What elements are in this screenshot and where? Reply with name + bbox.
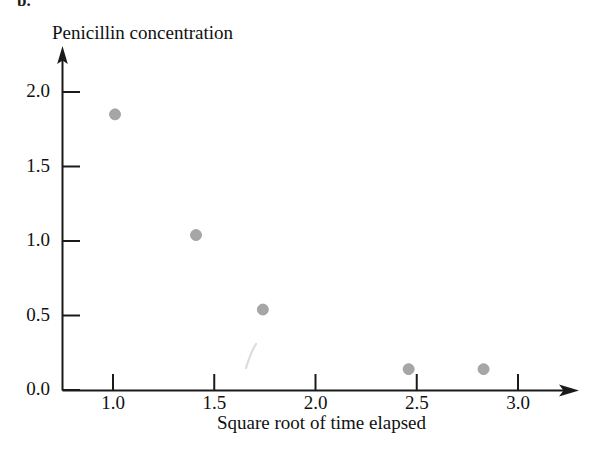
y-tick-label: 1.5 xyxy=(4,155,50,177)
x-tick-label: 2.0 xyxy=(288,392,344,414)
x-tick-label: 1.0 xyxy=(85,392,141,414)
data-markers-group xyxy=(110,109,490,375)
x-tick-label: 1.5 xyxy=(186,392,242,414)
data-point-marker xyxy=(191,230,202,241)
y-tick-label: 0.5 xyxy=(4,304,50,326)
scatter-plot-figure: b. Penicillin concentration 0.00.51.01.5… xyxy=(0,0,599,449)
scan-artifact xyxy=(246,344,256,368)
x-tick-label: 2.5 xyxy=(389,392,445,414)
x-tick-label: 3.0 xyxy=(490,392,546,414)
plot-canvas xyxy=(0,0,599,449)
data-point-marker xyxy=(110,109,121,120)
y-tick-label: 0.0 xyxy=(4,378,50,400)
y-tick-label: 2.0 xyxy=(4,80,50,102)
axes-group xyxy=(57,46,579,396)
tick-marks-group xyxy=(63,92,519,391)
data-point-marker xyxy=(478,364,489,375)
y-tick-label: 1.0 xyxy=(4,229,50,251)
data-point-marker xyxy=(257,304,268,315)
data-point-marker xyxy=(403,364,414,375)
x-axis-title: Square root of time elapsed xyxy=(0,412,599,434)
